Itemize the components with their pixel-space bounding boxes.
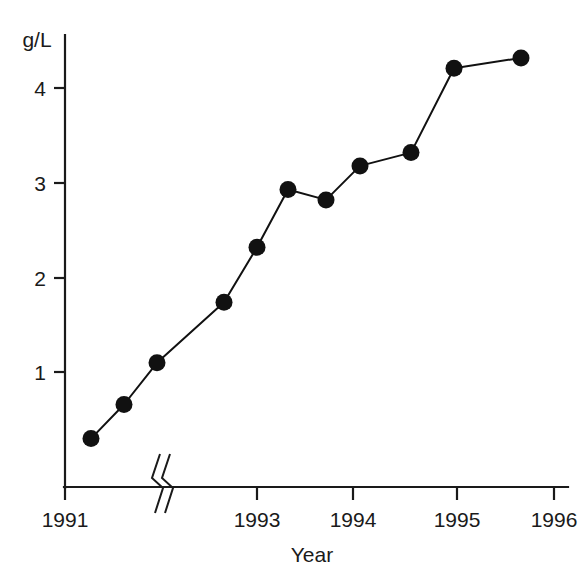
- line-chart-canvas: 4 3 2 1 g/L 1991 1993 1994 1995 1996 Yea…: [0, 0, 579, 574]
- axis-break-icon: [152, 454, 173, 513]
- data-point-marker: [318, 191, 335, 208]
- x-tick-label-1996: 1996: [531, 508, 578, 531]
- data-point-marker: [280, 181, 297, 198]
- data-point-marker: [446, 60, 463, 77]
- x-tick-label-1991: 1991: [42, 508, 89, 531]
- data-point-marker: [352, 157, 369, 174]
- data-point-marker: [513, 49, 530, 66]
- data-point-marker: [149, 354, 166, 371]
- data-point-marker: [83, 430, 100, 447]
- series-line-gl: [91, 58, 521, 439]
- y-tick-label-4: 4: [34, 77, 46, 100]
- x-tick-label-1994: 1994: [330, 508, 377, 531]
- y-tick-label-2: 2: [34, 267, 46, 290]
- series-markers-group: [83, 49, 530, 447]
- x-axis-title: Year: [291, 543, 333, 566]
- data-point-marker: [403, 144, 420, 161]
- x-tick-label-1995: 1995: [434, 508, 481, 531]
- y-tick-label-3: 3: [34, 172, 46, 195]
- y-axis-unit-label: g/L: [22, 28, 51, 51]
- chart-figure: 4 3 2 1 g/L 1991 1993 1994 1995 1996 Yea…: [0, 0, 579, 574]
- y-tick-label-1: 1: [34, 361, 46, 384]
- data-point-marker: [216, 294, 233, 311]
- data-point-marker: [116, 396, 133, 413]
- data-point-marker: [249, 239, 266, 256]
- x-tick-label-1993: 1993: [234, 508, 281, 531]
